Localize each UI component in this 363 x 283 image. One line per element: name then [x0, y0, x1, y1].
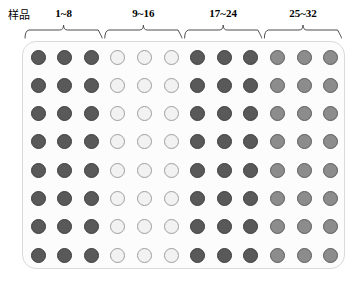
well-r1-c3: [84, 50, 99, 65]
well-r7-c3: [84, 219, 99, 234]
well-r3-c9: [243, 106, 258, 121]
well-r2-c11: [297, 78, 312, 93]
well-r4-c5: [137, 134, 152, 149]
well-r4-c2: [57, 134, 72, 149]
well-r7-c1: [31, 219, 46, 234]
microplate-figure: 样品 1~8 9~16 17~24 25~32: [0, 0, 363, 283]
well-r1-c9: [243, 50, 258, 65]
well-r2-c8: [217, 78, 232, 93]
well-r5-c7: [190, 163, 205, 178]
well-r8-c1: [31, 248, 46, 263]
well-r3-c6: [164, 106, 179, 121]
well-r5-c11: [297, 163, 312, 178]
well-r3-c11: [297, 106, 312, 121]
well-r8-c2: [57, 248, 72, 263]
well-r1-c4: [110, 50, 125, 65]
well-r8-c12: [323, 248, 338, 263]
well-r7-c6: [164, 219, 179, 234]
well-r2-c2: [57, 78, 72, 93]
well-r8-c9: [243, 248, 258, 263]
well-r3-c1: [31, 106, 46, 121]
well-r2-c7: [190, 78, 205, 93]
well-r7-c5: [137, 219, 152, 234]
well-r4-c12: [323, 134, 338, 149]
well-r7-c9: [243, 219, 258, 234]
well-r6-c10: [270, 191, 285, 206]
well-r8-c10: [270, 248, 285, 263]
group-brace-1: [25, 25, 102, 38]
well-r6-c7: [190, 191, 205, 206]
well-r2-c5: [137, 78, 152, 93]
well-r1-c7: [190, 50, 205, 65]
group-label-3: 17~24: [183, 7, 263, 19]
well-r2-c9: [243, 78, 258, 93]
well-r1-c12: [323, 50, 338, 65]
well-r6-c11: [297, 191, 312, 206]
well-r2-c4: [110, 78, 125, 93]
well-r7-c12: [323, 219, 338, 234]
well-r3-c2: [57, 106, 72, 121]
group-header-row: 样品 1~8 9~16 17~24 25~32: [0, 6, 363, 24]
well-r4-c6: [164, 134, 179, 149]
microplate-body: [22, 41, 345, 269]
well-r2-c1: [31, 78, 46, 93]
well-r1-c2: [57, 50, 72, 65]
well-r5-c2: [57, 163, 72, 178]
well-r3-c7: [190, 106, 205, 121]
well-r4-c9: [243, 134, 258, 149]
well-r5-c3: [84, 163, 99, 178]
well-r4-c8: [217, 134, 232, 149]
group-label-4: 25~32: [263, 7, 343, 19]
well-r6-c2: [57, 191, 72, 206]
well-r6-c6: [164, 191, 179, 206]
well-r8-c7: [190, 248, 205, 263]
well-r6-c1: [31, 191, 46, 206]
well-r8-c5: [137, 248, 152, 263]
well-r2-c12: [323, 78, 338, 93]
well-r6-c3: [84, 191, 99, 206]
group-brace-2: [105, 25, 182, 38]
group-label-2: 9~16: [103, 7, 183, 19]
well-r7-c4: [110, 219, 125, 234]
well-r4-c1: [31, 134, 46, 149]
well-r5-c12: [323, 163, 338, 178]
well-r5-c10: [270, 163, 285, 178]
well-r6-c12: [323, 191, 338, 206]
well-r1-c6: [164, 50, 179, 65]
well-r4-c7: [190, 134, 205, 149]
well-r7-c8: [217, 219, 232, 234]
well-r1-c11: [297, 50, 312, 65]
well-r5-c6: [164, 163, 179, 178]
well-r3-c12: [323, 106, 338, 121]
well-r5-c8: [217, 163, 232, 178]
well-r8-c4: [110, 248, 125, 263]
well-r7-c10: [270, 219, 285, 234]
well-r8-c3: [84, 248, 99, 263]
well-r3-c5: [137, 106, 152, 121]
well-r7-c7: [190, 219, 205, 234]
well-grid: [23, 42, 346, 270]
well-r4-c10: [270, 134, 285, 149]
well-r2-c3: [84, 78, 99, 93]
well-r2-c10: [270, 78, 285, 93]
well-r6-c9: [243, 191, 258, 206]
well-r8-c8: [217, 248, 232, 263]
well-r4-c3: [84, 134, 99, 149]
well-r5-c4: [110, 163, 125, 178]
group-brace-layer: [0, 24, 363, 40]
well-r3-c10: [270, 106, 285, 121]
well-r5-c9: [243, 163, 258, 178]
well-r8-c6: [164, 248, 179, 263]
well-r5-c1: [31, 163, 46, 178]
well-r8-c11: [297, 248, 312, 263]
well-r6-c8: [217, 191, 232, 206]
well-r1-c1: [31, 50, 46, 65]
well-r3-c3: [84, 106, 99, 121]
well-r4-c11: [297, 134, 312, 149]
well-r5-c5: [137, 163, 152, 178]
well-r7-c11: [297, 219, 312, 234]
well-r6-c5: [137, 191, 152, 206]
group-brace-3: [185, 25, 262, 38]
well-r1-c10: [270, 50, 285, 65]
well-r1-c5: [137, 50, 152, 65]
